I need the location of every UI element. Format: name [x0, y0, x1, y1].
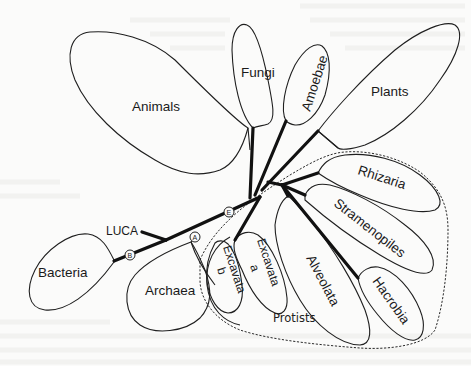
bacteria-label: Bacteria — [38, 265, 88, 280]
plants-label: Plants — [371, 84, 409, 99]
archaea-label: Archaea — [145, 283, 196, 298]
marker-e-text: E — [227, 209, 232, 216]
marker-eukaryote: E — [224, 207, 234, 217]
marker-bacteria: B — [125, 250, 135, 260]
tree-of-life-diagram: Animals Fungi Amoebae Plants Protists Rh… — [0, 0, 471, 366]
marker-archaea: A — [190, 232, 200, 242]
animals-label: Animals — [132, 99, 180, 114]
fungi-label: Fungi — [241, 65, 275, 80]
marker-b-text: B — [128, 252, 133, 259]
marker-a-text: A — [193, 234, 198, 241]
luca-label: LUCA — [106, 224, 138, 238]
